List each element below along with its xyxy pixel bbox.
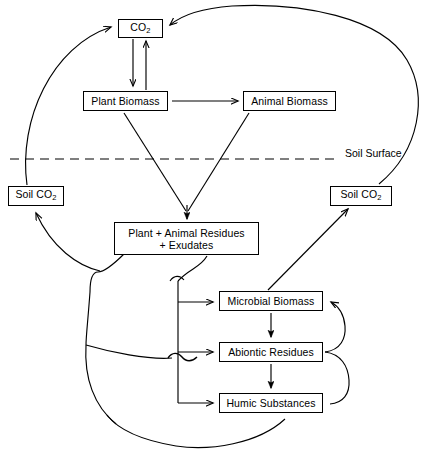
node-humic-substances[interactable]: Humic Substances (219, 393, 323, 413)
arc-soil-pool-to-soil-co2-left (36, 213, 100, 271)
node-animal-biomass[interactable]: Animal Biomass (243, 91, 336, 111)
node-microbial-biomass-label: Microbial Biomass (224, 295, 319, 307)
node-abiontic-residues[interactable]: Abiontic Residues (219, 342, 323, 362)
node-soil-co2-right[interactable]: Soil CO2 (330, 186, 392, 206)
node-residues-exudates-label: Plant + Animal Residues + Exudates (124, 227, 248, 251)
diagram-canvas: CO2 Plant Biomass Animal Biomass Soil CO… (0, 0, 431, 457)
soil-pool-outline-lower-left (86, 345, 116, 424)
brace-humic-to-abiontic (325, 352, 349, 404)
co2-subscript: 2 (146, 25, 150, 34)
node-abiontic-residues-label: Abiontic Residues (224, 346, 318, 358)
soil-co2-right-subscript: 2 (377, 193, 381, 202)
node-soil-co2-left[interactable]: Soil CO2 (8, 186, 64, 206)
node-co2-label: CO2 (126, 21, 154, 37)
node-plant-biomass[interactable]: Plant Biomass (83, 91, 168, 111)
brace-abiontic-to-microbial (325, 302, 345, 352)
soil-pool-branch-to-abiontic (86, 345, 172, 358)
node-microbial-biomass[interactable]: Microbial Biomass (219, 291, 323, 311)
arrow-microbial-to-soil-co2-right (268, 209, 348, 290)
node-soil-co2-left-label: Soil CO2 (11, 188, 60, 204)
arc-humic-to-soil-pool (107, 415, 285, 448)
soil-pool-outline-upper (90, 253, 125, 292)
soil-co2-left-subscript: 2 (52, 193, 56, 202)
node-humic-substances-label: Humic Substances (222, 397, 319, 409)
soil-surface-label: Soil Surface (345, 147, 402, 159)
node-animal-biomass-label: Animal Biomass (247, 95, 332, 107)
node-plant-biomass-label: Plant Biomass (87, 95, 163, 107)
node-co2[interactable]: CO2 (118, 19, 163, 38)
node-soil-co2-right-label: Soil CO2 (336, 188, 385, 204)
soil-pool-outline-left (86, 292, 90, 345)
curve-residues-to-stem (178, 256, 207, 281)
node-residues-exudates[interactable]: Plant + Animal Residues + Exudates (114, 222, 259, 255)
arrow-animal-to-residues (188, 113, 249, 211)
arrow-plant-to-residues (124, 113, 186, 211)
wiggle-crossing-abiontic (168, 353, 197, 360)
